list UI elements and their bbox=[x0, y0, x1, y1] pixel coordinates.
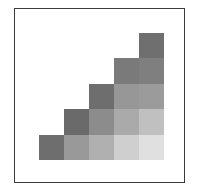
grid-cell bbox=[89, 135, 114, 160]
grid-cell bbox=[139, 58, 164, 83]
staircase-grid bbox=[39, 33, 164, 160]
grid-cell bbox=[114, 84, 139, 109]
grid-cell bbox=[64, 109, 89, 134]
grid-cell bbox=[139, 33, 164, 58]
grid-cell bbox=[89, 84, 114, 109]
grid-cell bbox=[39, 135, 64, 160]
grid-cell bbox=[114, 58, 139, 83]
grid-cell bbox=[89, 109, 114, 134]
grid-cell bbox=[139, 135, 164, 160]
grid-cell bbox=[114, 109, 139, 134]
grid-cell bbox=[64, 135, 89, 160]
grid-cell bbox=[139, 84, 164, 109]
grid-cell bbox=[139, 109, 164, 134]
grid-cell bbox=[114, 135, 139, 160]
